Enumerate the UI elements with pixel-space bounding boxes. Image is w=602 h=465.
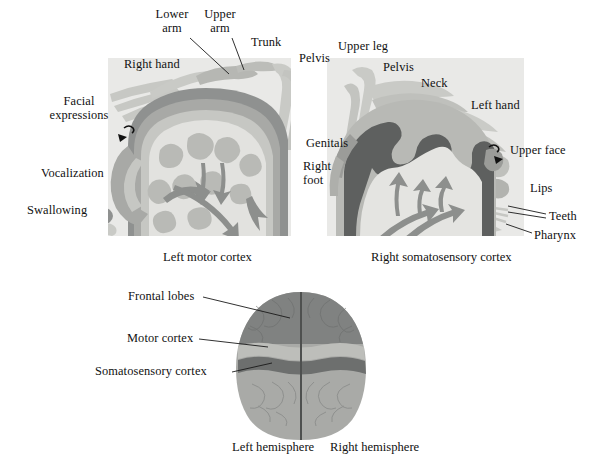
label-somatosensory-cortex: Somatosensory cortex <box>95 365 207 379</box>
label-pelvis-right: Pelvis <box>383 61 414 75</box>
label-trunk: Trunk <box>251 36 281 50</box>
label-pelvis-left: Pelvis <box>299 52 330 66</box>
caption-left-hemisphere: Left hemisphere <box>232 440 314 455</box>
label-lower-arm: Lower arm <box>148 8 196 35</box>
caption-right-hemisphere: Right hemisphere <box>330 440 419 455</box>
label-frontal-lobes: Frontal lobes <box>128 290 194 304</box>
label-neck: Neck <box>421 77 448 91</box>
label-upper-face: Upper face <box>510 144 566 158</box>
label-right-hand: Right hand <box>124 58 180 72</box>
label-left-hand: Left hand <box>471 99 520 113</box>
label-lips: Lips <box>530 182 552 196</box>
figure-root: Lower arm Upper arm Trunk Right hand Fac… <box>0 0 602 465</box>
label-teeth: Teeth <box>549 210 577 224</box>
caption-left-motor-cortex: Left motor cortex <box>163 250 252 265</box>
label-upper-leg: Upper leg <box>338 40 388 54</box>
label-pharynx: Pharynx <box>534 229 576 243</box>
label-genitals: Genitals <box>306 137 348 151</box>
label-motor-cortex: Motor cortex <box>127 332 193 346</box>
left-motor-cortex-diagram <box>90 38 300 240</box>
label-upper-arm: Upper arm <box>196 8 244 35</box>
figure-graphics <box>0 0 602 465</box>
label-swallowing: Swallowing <box>27 204 87 218</box>
brain-top-view-diagram <box>199 292 366 440</box>
label-facial-expressions: Facial expressions <box>38 95 120 122</box>
label-vocalization: Vocalization <box>41 167 104 181</box>
caption-right-somatosensory-cortex: Right somatosensory cortex <box>371 250 512 265</box>
label-right-foot: Right foot <box>303 160 331 187</box>
